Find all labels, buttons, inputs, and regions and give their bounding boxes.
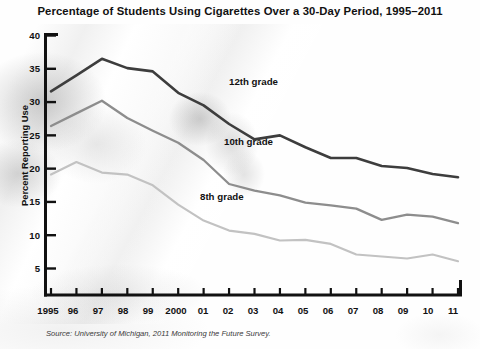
series-lines: [51, 59, 458, 261]
series-line-12th-grade: [51, 59, 458, 178]
series-line-10th-grade: [51, 101, 458, 224]
chart-figure: Percentage of Students Using Cigarettes …: [0, 0, 480, 349]
plot-area: [0, 0, 480, 349]
series-line-8th-grade: [51, 162, 458, 261]
